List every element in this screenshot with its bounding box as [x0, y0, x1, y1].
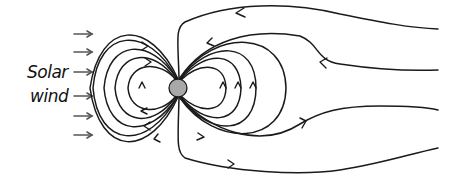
magnetosphere-svg: [0, 0, 463, 180]
dayside-field-lines: [90, 35, 178, 142]
wind-arrow-icon: [74, 113, 92, 119]
arrowhead-icon: [197, 133, 204, 140]
wind-arrow-icon: [74, 31, 92, 37]
solar-wind-label-line2: wind: [30, 86, 68, 106]
arrowhead-icon: [139, 82, 145, 88]
tail-field-lines: [178, 6, 438, 173]
arrowhead-icon: [207, 38, 214, 46]
arrowhead-icon: [144, 122, 150, 130]
earth-icon: [169, 79, 187, 97]
solar-wind-arrows: [74, 31, 92, 138]
field-direction-arrows: [139, 8, 327, 168]
nightside-field-lines: [180, 42, 286, 133]
wind-arrow-icon: [74, 69, 92, 75]
arrowhead-icon: [154, 134, 160, 142]
wind-arrow-icon: [74, 132, 92, 138]
solar-wind-label-line1: Solar: [27, 62, 68, 82]
arrowhead-icon: [236, 8, 245, 17]
magnetosphere-diagram: Solar wind: [0, 0, 463, 180]
arrowhead-icon: [228, 160, 234, 168]
wind-arrow-icon: [74, 93, 92, 99]
arrowhead-icon: [142, 42, 148, 50]
wind-arrow-icon: [74, 49, 92, 55]
